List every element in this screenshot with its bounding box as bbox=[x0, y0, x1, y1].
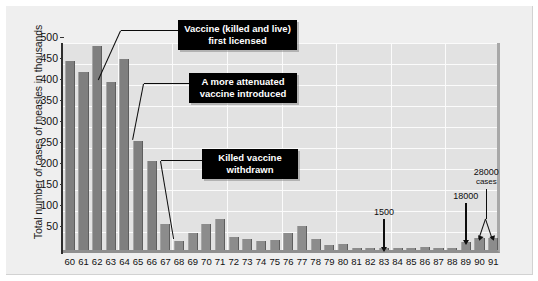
x-tick-label-87: 87 bbox=[433, 256, 444, 267]
x-tick-label-74: 74 bbox=[256, 256, 267, 267]
bar-80 bbox=[338, 244, 348, 250]
bar-82 bbox=[365, 248, 375, 250]
chart-screenshot: Total number of cases of measles in thou… bbox=[0, 0, 538, 281]
bar-69 bbox=[188, 233, 198, 250]
callout-line-2: vaccine introduced bbox=[200, 88, 287, 99]
bar-70 bbox=[201, 224, 211, 250]
y-axis-title: Total number of cases of measles in thou… bbox=[32, 12, 44, 252]
x-tick-label-73: 73 bbox=[242, 256, 253, 267]
bar-78 bbox=[311, 239, 321, 250]
gridline-vertical-80 bbox=[336, 43, 337, 250]
callout-attenuated-vaccine: A more attenuated vaccine introduced bbox=[189, 73, 297, 103]
y-tick-label-450: 450 bbox=[32, 52, 58, 64]
bar-64 bbox=[119, 59, 129, 250]
bar-63 bbox=[106, 82, 116, 250]
callout-killed-vaccine-withdrawn: Killed vaccine withdrawn bbox=[202, 149, 298, 179]
callout-line-2: withdrawn bbox=[227, 164, 274, 175]
x-tick-label-90: 90 bbox=[474, 256, 485, 267]
bar-74 bbox=[256, 241, 266, 250]
x-axis-tick-group: 6061626364656667686970717273747576777879… bbox=[63, 256, 500, 272]
x-tick-label-64: 64 bbox=[119, 256, 130, 267]
bar-77 bbox=[297, 226, 307, 250]
bar-66 bbox=[147, 161, 157, 250]
y-tick-label-150: 150 bbox=[32, 178, 58, 190]
bar-84 bbox=[393, 248, 403, 250]
x-tick-label-67: 67 bbox=[160, 256, 171, 267]
bar-65 bbox=[133, 141, 143, 250]
x-tick-label-76: 76 bbox=[283, 256, 294, 267]
figure-panel: Total number of cases of measles in thou… bbox=[6, 6, 533, 275]
x-tick-label-66: 66 bbox=[146, 256, 157, 267]
x-tick-label-83: 83 bbox=[379, 256, 390, 267]
annotation-1989-arrow-line bbox=[465, 203, 466, 240]
y-tick-label-50: 50 bbox=[32, 220, 58, 232]
bar-73 bbox=[242, 239, 252, 250]
x-tick-label-88: 88 bbox=[447, 256, 458, 267]
y-tick-label-350: 350 bbox=[32, 94, 58, 106]
x-tick-label-63: 63 bbox=[106, 256, 117, 267]
x-tick-label-72: 72 bbox=[228, 256, 239, 267]
annotation-1989-label: 18000 bbox=[453, 191, 478, 201]
x-tick-label-79: 79 bbox=[324, 256, 335, 267]
x-tick-label-77: 77 bbox=[297, 256, 308, 267]
x-tick-label-78: 78 bbox=[310, 256, 321, 267]
x-tick-label-65: 65 bbox=[133, 256, 144, 267]
bar-61 bbox=[78, 72, 88, 251]
bar-76 bbox=[283, 233, 293, 250]
x-tick-label-68: 68 bbox=[174, 256, 185, 267]
annotation-1989-arrow-head bbox=[463, 240, 469, 245]
callout-line-1: Vaccine (killed and live) bbox=[184, 23, 291, 34]
bar-87 bbox=[433, 248, 443, 250]
bar-72 bbox=[229, 237, 239, 250]
y-tick-label-250: 250 bbox=[32, 136, 58, 148]
bar-67 bbox=[160, 224, 170, 250]
x-tick-label-61: 61 bbox=[78, 256, 89, 267]
annotation-1983-arrow-head bbox=[381, 247, 387, 252]
leader-killed-vaccine-h bbox=[161, 160, 202, 161]
gridline-vertical-88 bbox=[445, 43, 446, 250]
x-tick-label-81: 81 bbox=[351, 256, 362, 267]
x-tick-label-89: 89 bbox=[461, 256, 472, 267]
annotation-1983-value: 1500 bbox=[374, 207, 394, 217]
y-tick-mark-500 bbox=[60, 37, 64, 38]
bar-81 bbox=[352, 248, 362, 250]
x-tick-label-91: 91 bbox=[488, 256, 499, 267]
bar-88 bbox=[447, 248, 457, 250]
bar-75 bbox=[270, 240, 280, 250]
y-tick-label-400: 400 bbox=[32, 73, 58, 85]
bar-60 bbox=[65, 61, 75, 250]
x-tick-label-60: 60 bbox=[65, 256, 76, 267]
bar-68 bbox=[174, 241, 184, 250]
y-tick-label-100: 100 bbox=[32, 199, 58, 211]
callout-line-1: A more attenuated bbox=[201, 76, 284, 87]
bar-86 bbox=[420, 247, 430, 250]
callout-line-1: Killed vaccine bbox=[218, 152, 281, 163]
leader-vaccine-licensed-h bbox=[121, 30, 178, 31]
x-tick-label-70: 70 bbox=[201, 256, 212, 267]
bar-71 bbox=[215, 219, 225, 251]
leader-attenuated-vaccine-h bbox=[144, 83, 189, 84]
annotation-1989-value: 18000 bbox=[453, 191, 478, 201]
x-tick-label-86: 86 bbox=[420, 256, 431, 267]
callout-vaccine-licensed: Vaccine (killed and live) first licensed bbox=[178, 20, 297, 50]
annotation-1983-label: 1500 bbox=[374, 207, 394, 217]
bar-85 bbox=[406, 248, 416, 250]
x-tick-label-71: 71 bbox=[215, 256, 226, 267]
y-tick-label-500: 500 bbox=[32, 31, 58, 43]
gridline-vertical-84 bbox=[391, 43, 392, 250]
y-tick-label-200: 200 bbox=[32, 157, 58, 169]
x-tick-label-82: 82 bbox=[365, 256, 376, 267]
x-tick-label-69: 69 bbox=[187, 256, 198, 267]
x-tick-label-62: 62 bbox=[92, 256, 103, 267]
bar-79 bbox=[324, 245, 334, 250]
annotation-1990-1991-arrow-stem bbox=[486, 189, 487, 219]
x-tick-label-85: 85 bbox=[406, 256, 417, 267]
annotation-1990-1991-value: 28000 bbox=[474, 167, 499, 177]
gridline-vertical-68 bbox=[172, 43, 173, 250]
x-tick-label-75: 75 bbox=[269, 256, 280, 267]
annotation-1983-arrow-line bbox=[383, 219, 384, 247]
y-tick-label-300: 300 bbox=[32, 115, 58, 127]
x-tick-label-80: 80 bbox=[338, 256, 349, 267]
callout-line-2: first licensed bbox=[208, 35, 267, 46]
bar-62 bbox=[92, 46, 102, 250]
